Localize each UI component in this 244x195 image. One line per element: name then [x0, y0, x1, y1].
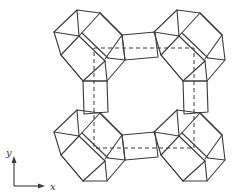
x-arrow-icon — [38, 184, 45, 189]
top-left-cage — [54, 10, 125, 81]
axes-indicator: y x — [5, 147, 56, 192]
bottom-bridge — [122, 132, 158, 160]
x-axis-label: x — [50, 181, 56, 192]
right-bridge — [183, 81, 208, 114]
top-right-cage — [154, 10, 225, 81]
left-bridge — [83, 81, 108, 114]
cage-framework-diagram: y x — [0, 0, 244, 195]
bottom-left-cage — [54, 110, 125, 181]
y-arrow-icon — [12, 156, 17, 163]
y-axis-label: y — [5, 147, 12, 158]
bottom-right-cage — [154, 110, 225, 181]
top-bridge — [122, 32, 158, 60]
